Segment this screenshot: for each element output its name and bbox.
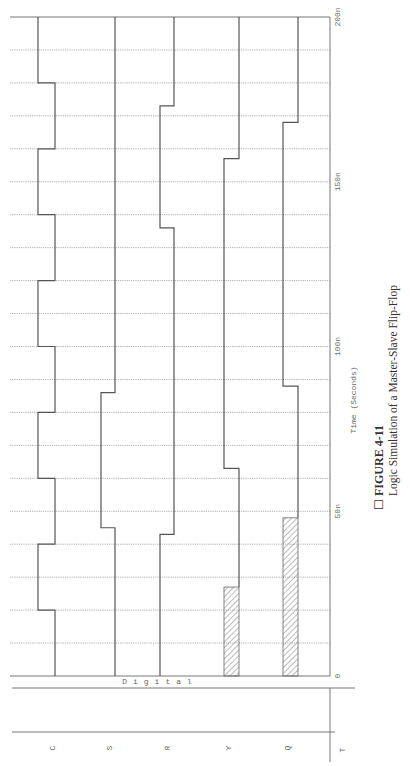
unknown-state-Q (283, 518, 298, 676)
tick-label: 150n (333, 172, 342, 191)
tick-label: 0 (333, 673, 342, 678)
time-axis-label: Time (Seconds) (349, 366, 358, 433)
signal-label-R: R (163, 745, 172, 750)
timing-diagram: 050n100n150n200n CSRYQ Time (Seconds) Di… (0, 0, 410, 766)
signal-labels: CSRYQ (48, 745, 292, 750)
unknown-state-Y (224, 587, 239, 676)
tick-label: 100n (333, 337, 342, 356)
caption-title: FIGURE 4-11 (372, 425, 386, 496)
tick-label: 200n (333, 7, 342, 26)
figure-caption: ☐ FIGURE 4-11 Logic Simulation of a Mast… (372, 285, 400, 510)
signal-label-S: S (105, 745, 114, 750)
corner-label: T (338, 747, 347, 752)
digital-axis-label: Digital (122, 677, 198, 686)
trace-Q (283, 17, 298, 518)
trace-Y (224, 17, 239, 587)
signal-label-Y: Y (224, 745, 233, 750)
time-axis-ticks: 050n100n150n200n (333, 7, 342, 678)
caption-subtitle: Logic Simulation of a Master-Slave Flip-… (387, 285, 400, 496)
signal-label-C: C (48, 745, 57, 750)
tick-label: 50n (333, 504, 342, 519)
signal-label-Q: Q (283, 745, 292, 750)
plot-frame (12, 17, 355, 762)
grid-lines (10, 17, 330, 676)
caption-marker: ☐ (373, 499, 385, 510)
